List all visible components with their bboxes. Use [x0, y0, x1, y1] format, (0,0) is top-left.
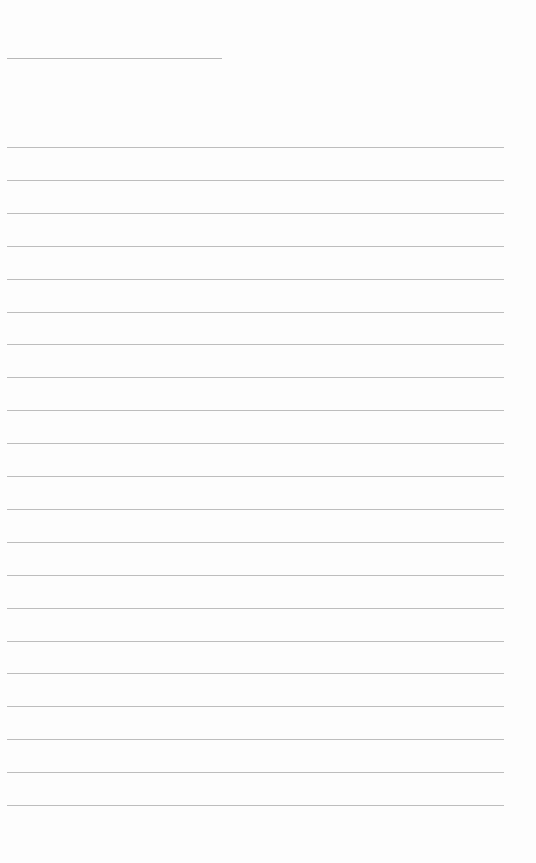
ruled-line: [7, 509, 504, 510]
ruled-line: [7, 772, 504, 773]
ruled-line: [7, 542, 504, 543]
ruled-line: [7, 476, 504, 477]
ruled-line: [7, 180, 504, 181]
ruled-line: [7, 706, 504, 707]
ruled-line: [7, 443, 504, 444]
ruled-line: [7, 279, 504, 280]
ruled-line: [7, 377, 504, 378]
ruled-line: [7, 641, 504, 642]
ruled-line: [7, 312, 504, 313]
title-line: [7, 58, 222, 59]
ruled-line: [7, 673, 504, 674]
ruled-line: [7, 575, 504, 576]
ruled-line: [7, 410, 504, 411]
ruled-line: [7, 805, 504, 806]
ruled-line: [7, 608, 504, 609]
ruled-line: [7, 147, 504, 148]
ruled-line: [7, 246, 504, 247]
ruled-line: [7, 213, 504, 214]
ruled-line: [7, 739, 504, 740]
ruled-line: [7, 344, 504, 345]
